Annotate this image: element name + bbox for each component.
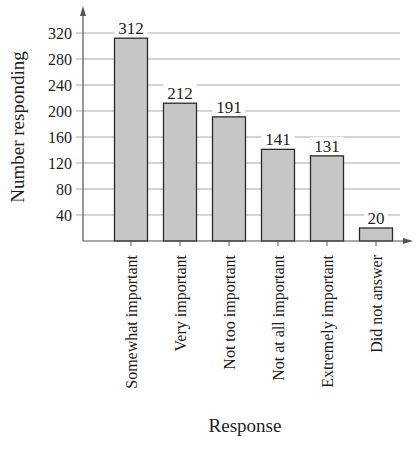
data-labels: 31221219114113120 [118, 19, 384, 228]
y-axis-title: Number responding [7, 51, 28, 203]
bar [360, 228, 393, 241]
x-tick-label: Somewhat important [123, 254, 141, 388]
x-tick-label: Did not answer [368, 254, 385, 352]
data-label: 191 [216, 98, 242, 117]
bar [115, 38, 148, 241]
bar-chart: 4080120160200240280320 Somewhat importan… [0, 0, 420, 462]
x-tick-label: Extremely important [319, 254, 337, 387]
x-tick-label: Very important [172, 254, 190, 351]
data-label: 131 [314, 137, 340, 156]
bar [164, 103, 197, 241]
y-tick-label: 240 [48, 77, 72, 94]
x-axis-arrow-icon [403, 238, 413, 244]
bar [262, 149, 295, 241]
x-tick-label: Not too important [221, 254, 239, 369]
bar [213, 117, 246, 241]
x-tick-labels: Somewhat importantVery importantNot too … [123, 241, 385, 389]
y-tick-label: 40 [56, 207, 72, 224]
y-tick-label: 320 [48, 25, 72, 42]
data-label: 212 [167, 84, 193, 103]
data-label: 312 [118, 19, 144, 38]
y-tick-label: 80 [56, 181, 72, 198]
x-tick-label: Not at all important [270, 254, 288, 380]
data-label: 141 [265, 130, 291, 149]
y-axis-arrow-icon [80, 6, 86, 16]
bars [115, 19, 393, 241]
y-tick-labels: 4080120160200240280320 [48, 25, 72, 224]
chart-canvas: 4080120160200240280320 Somewhat importan… [0, 0, 420, 462]
y-tick-label: 160 [48, 129, 72, 146]
x-axis-title: Response [209, 415, 282, 436]
data-label: 20 [368, 209, 385, 228]
y-tick-label: 280 [48, 51, 72, 68]
y-tick-label: 200 [48, 103, 72, 120]
y-tick-label: 120 [48, 155, 72, 172]
bar [311, 156, 344, 241]
